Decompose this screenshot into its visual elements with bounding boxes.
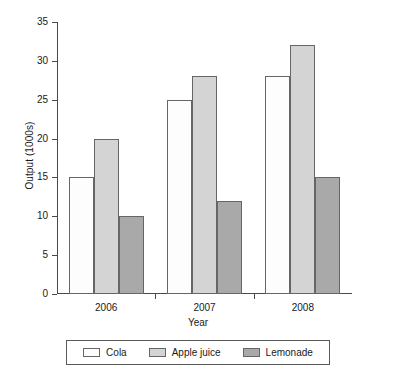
legend-label: Lemonade (266, 347, 313, 358)
bar-applejuice-2007 (192, 76, 217, 294)
y-axis-tick-label: 25 (37, 95, 48, 105)
bar-cola-2008 (265, 76, 290, 294)
legend-swatch-icon-applejuice (149, 348, 166, 357)
bar-chart-figure: Output (1000s) 05101520253035 Year ColaA… (0, 0, 396, 377)
y-axis-tick-label: 35 (37, 17, 48, 27)
legend-item-lemonade: Lemonade (243, 347, 313, 358)
bar-lemonade-2006 (119, 216, 144, 294)
y-axis-tick (52, 139, 57, 140)
y-axis-tick (52, 61, 57, 62)
chart-legend: ColaApple juiceLemonade (66, 340, 330, 365)
plot-area: 05101520253035 (57, 22, 352, 294)
y-axis-tick (52, 100, 57, 101)
legend-item-cola: Cola (83, 347, 127, 358)
y-axis-tick (52, 177, 57, 178)
x-axis-label-2007: 2007 (193, 302, 215, 313)
y-axis-tick (52, 22, 57, 23)
y-axis-tick-label: 5 (42, 250, 48, 260)
y-axis-tick-label: 20 (37, 134, 48, 144)
y-axis-tick-label: 15 (37, 172, 48, 182)
legend-item-applejuice: Apple juice (149, 347, 221, 358)
y-axis-tick-label: 0 (42, 289, 48, 299)
bar-cola-2007 (167, 100, 192, 294)
bar-lemonade-2008 (315, 177, 340, 294)
y-axis-tick (52, 294, 57, 295)
x-axis-label-2008: 2008 (292, 302, 314, 313)
bar-applejuice-2008 (290, 45, 315, 294)
legend-swatch-icon-lemonade (243, 348, 260, 357)
x-axis-title: Year (0, 317, 396, 328)
bar-cola-2006 (69, 177, 94, 294)
y-axis-line (57, 22, 58, 294)
legend-label: Apple juice (172, 347, 221, 358)
legend-swatch-icon-cola (83, 348, 100, 357)
y-axis-tick (52, 216, 57, 217)
bar-lemonade-2007 (217, 201, 242, 294)
y-axis-title: Output (1000s) (24, 96, 35, 216)
x-axis-label-2006: 2006 (95, 302, 117, 313)
x-axis-tick (254, 294, 255, 299)
y-axis-tick-label: 10 (37, 211, 48, 221)
y-axis-tick (52, 255, 57, 256)
bar-applejuice-2006 (94, 139, 119, 294)
x-axis-tick (155, 294, 156, 299)
legend-label: Cola (106, 347, 127, 358)
y-axis-tick-label: 30 (37, 56, 48, 66)
